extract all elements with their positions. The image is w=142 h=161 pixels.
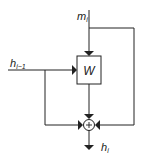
residual-block-diagram: mi hi−1 W hi [0,0,142,161]
input-m-label: mi [77,10,88,23]
arrow-down-output-icon [84,145,94,150]
arrow-down-into-sum-icon [84,114,94,119]
arrow-down-into-w-icon [84,51,94,56]
arrow-right-into-sum-icon [78,120,83,130]
h-prev-skip-connection [45,70,78,125]
arrow-left-into-sum-icon [95,120,100,130]
input-h-prev-label: hi−1 [10,57,26,70]
arrow-right-into-w-icon [72,65,77,75]
w-block-label: W [83,64,96,78]
output-h-label: hi [101,141,109,154]
